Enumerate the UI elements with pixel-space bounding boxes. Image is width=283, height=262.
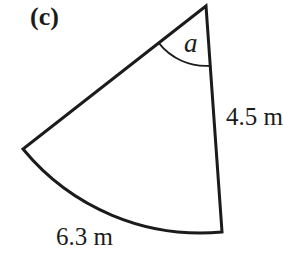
figure-canvas: (c) a 4.5 m 6.3 m [0, 0, 283, 262]
radius-label: 4.5 m [226, 104, 283, 129]
diagram-background [0, 0, 283, 262]
angle-label: a [184, 30, 198, 57]
arc-length-label: 6.3 m [56, 224, 113, 249]
part-label: (c) [30, 4, 59, 30]
sector-diagram [0, 0, 283, 262]
